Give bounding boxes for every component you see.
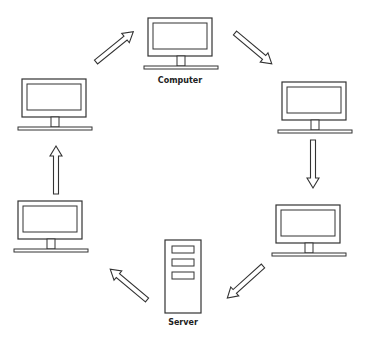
server-label: Server bbox=[143, 318, 223, 327]
arrow-icon bbox=[50, 146, 62, 194]
arrow-icon bbox=[223, 262, 267, 303]
monitor-icon bbox=[144, 18, 218, 69]
computer-right-bottom bbox=[272, 205, 346, 256]
computer-right-top bbox=[278, 82, 352, 133]
server bbox=[165, 240, 201, 313]
monitor-icon bbox=[18, 79, 92, 130]
ring-network-diagram bbox=[0, 0, 365, 338]
arrow-top-to-right-top bbox=[231, 28, 275, 68]
arrow-right-bottom-to-server bbox=[223, 262, 267, 303]
computer-top bbox=[144, 18, 218, 69]
computer-left-top bbox=[18, 79, 92, 130]
arrow-right-top-to-right-bottom bbox=[307, 140, 319, 188]
monitor-icon bbox=[272, 205, 346, 256]
monitor-icon bbox=[278, 82, 352, 133]
computer-label: Computer bbox=[140, 76, 220, 85]
arrow-server-to-left-bottom bbox=[106, 265, 150, 305]
computer-left-bottom bbox=[14, 201, 88, 252]
arrow-icon bbox=[231, 28, 275, 68]
arrow-icon bbox=[106, 265, 150, 305]
arrow-icon bbox=[92, 27, 137, 67]
arrow-icon bbox=[307, 140, 319, 188]
arrow-left-bottom-to-left-top bbox=[50, 146, 62, 194]
monitor-icon bbox=[14, 201, 88, 252]
arrow-left-top-to-top bbox=[92, 27, 137, 67]
